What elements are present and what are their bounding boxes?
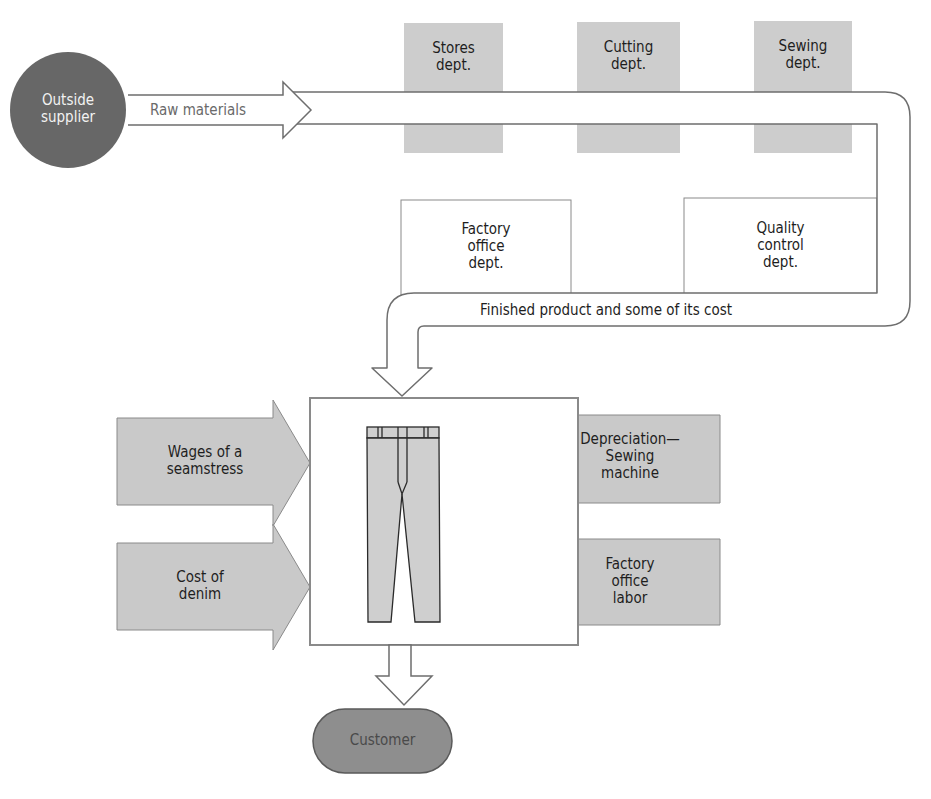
customer-label: Customer <box>313 732 452 749</box>
quality-control-dept-label: Quality control dept. <box>684 220 877 271</box>
raw-materials-label: Raw materials <box>150 102 280 119</box>
depreciation-sewing-machine-label: Depreciation— Sewing machine <box>540 431 720 482</box>
sewing-dept-label: Sewing dept. <box>754 38 852 72</box>
finished-product-label: Finished product and some of its cost <box>480 302 820 319</box>
outside-supplier-label: Outside supplier <box>18 92 118 126</box>
factory-office-dept-label: Factory office dept. <box>401 221 571 272</box>
factory-office-labor-label: Factory office labor <box>540 556 720 607</box>
stores-dept-label: Stores dept. <box>404 40 503 74</box>
wages-seamstress-label: Wages of a seamstress <box>135 444 275 478</box>
cost-of-denim-label: Cost of denim <box>135 569 265 603</box>
cutting-dept-label: Cutting dept. <box>577 39 680 73</box>
product-box <box>310 398 578 645</box>
to-customer-arrow <box>376 645 432 705</box>
flow-diagram-canvas <box>0 0 931 799</box>
